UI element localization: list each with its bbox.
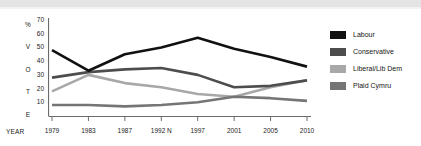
x-tick-label: 2010: [300, 128, 314, 135]
legend-label: Conservative: [353, 48, 394, 55]
legend-item[interactable]: Plaid Cymru: [330, 77, 420, 94]
chart-legend: LabourConservativeLiberal/Lib DemPlaid C…: [330, 26, 420, 94]
legend-label: Labour: [353, 31, 375, 38]
legend-swatch-icon: [330, 65, 346, 73]
legend-swatch-icon: [330, 48, 346, 56]
legend-label: Liberal/Lib Dem: [353, 65, 402, 72]
legend-swatch-icon: [330, 82, 346, 90]
legend-swatch-icon: [330, 31, 346, 39]
y-tick-label: 10: [30, 99, 44, 106]
y-axis-tick-labels: 70605040302010: [28, 0, 44, 146]
top-decoration-band-thin: [0, 7, 421, 9]
legend-item[interactable]: Conservative: [330, 43, 420, 60]
chart-figure: % V O T E 70605040302010 YEAR 1979198319…: [0, 0, 421, 146]
legend-item[interactable]: Liberal/Lib Dem: [330, 60, 420, 77]
plot-svg: [48, 12, 311, 122]
y-tick-label: 20: [30, 85, 44, 92]
series-line-labour: [52, 38, 307, 71]
x-axis-tick-labels: 1979198319871992 N1997200120052010: [0, 128, 421, 140]
y-tick-label: 40: [30, 58, 44, 65]
x-tick-label: 1997: [190, 128, 204, 135]
plot-area: [48, 12, 311, 122]
x-tick-label: 1987: [118, 128, 132, 135]
x-tick-label: 1992 N: [151, 128, 172, 135]
series-line-plaid-cymru: [52, 97, 307, 107]
y-tick-label: 30: [30, 72, 44, 79]
x-tick-label: 2001: [227, 128, 241, 135]
legend-item[interactable]: Labour: [330, 26, 420, 43]
x-tick-label: 1979: [45, 128, 59, 135]
y-tick-label: 50: [30, 44, 44, 51]
legend-label: Plaid Cymru: [353, 82, 391, 89]
x-tick-label: 2005: [263, 128, 277, 135]
top-decoration-band: [0, 0, 421, 7]
x-tick-label: 1983: [81, 128, 95, 135]
y-tick-label: 60: [30, 30, 44, 37]
y-tick-label: 70: [30, 17, 44, 24]
